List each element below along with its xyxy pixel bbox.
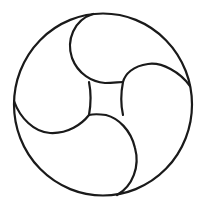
outer-circle [14,14,192,196]
comma-bottom-curve [89,114,137,195]
diagram-svg [0,0,199,209]
comma-right-curve [122,64,191,115]
comma-top-curve [70,14,123,83]
pinwheel-diagram [0,0,199,209]
comma-left-curve [14,82,91,133]
